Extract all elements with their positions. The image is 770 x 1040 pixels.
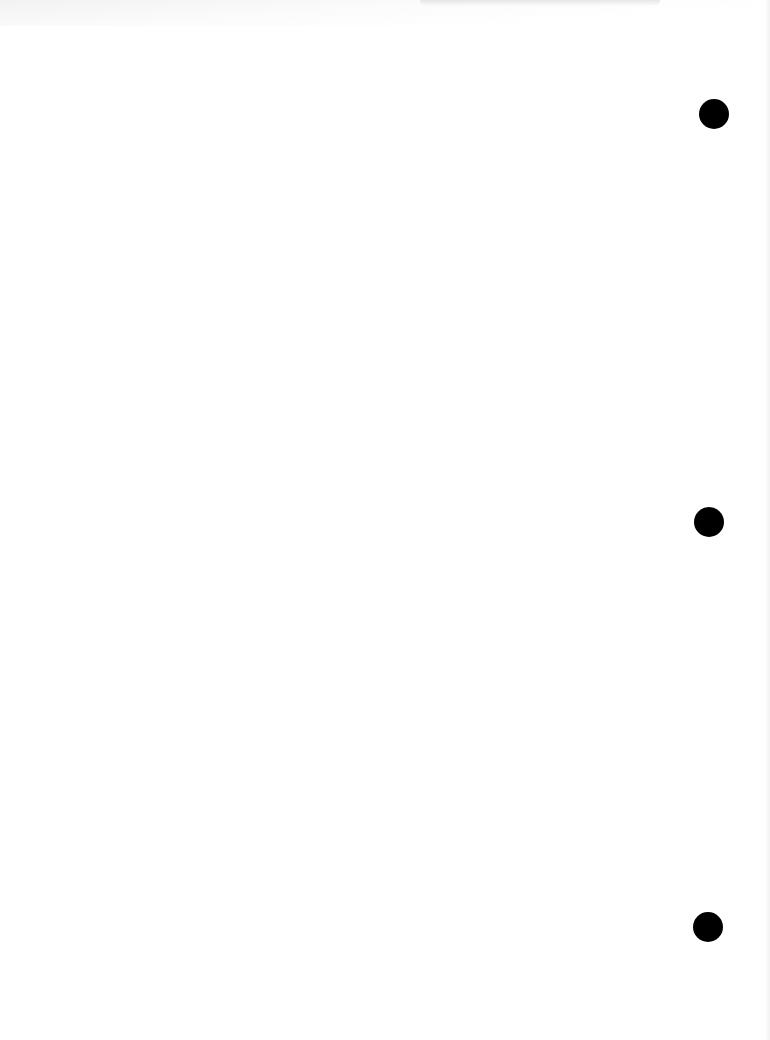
page-top-edge-shadow bbox=[420, 0, 660, 6]
punch-hole-top bbox=[699, 99, 729, 129]
page-right-edge-shading bbox=[765, 0, 770, 1040]
punch-hole-bottom bbox=[693, 912, 723, 942]
punch-hole-middle bbox=[694, 507, 724, 537]
blank-page bbox=[0, 0, 770, 1040]
